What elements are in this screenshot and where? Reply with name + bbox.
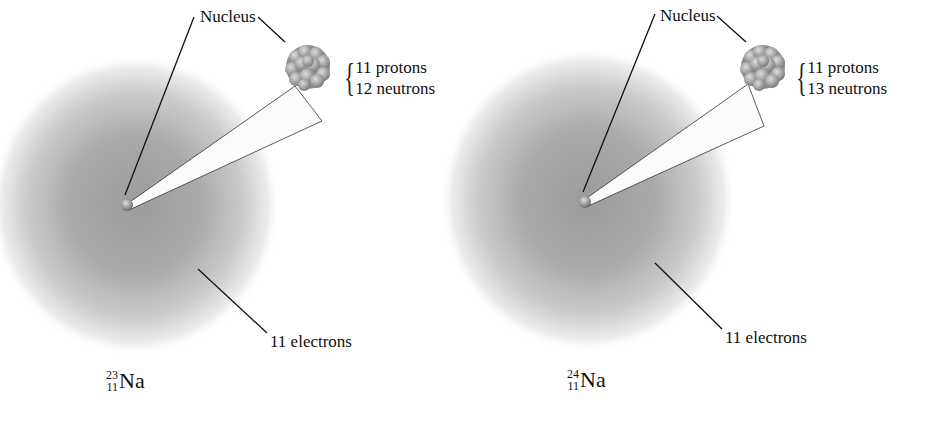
atom-na24 <box>440 14 785 352</box>
atomic-number: 11 <box>567 380 579 392</box>
nucleus-cluster <box>285 45 330 91</box>
nucleus-dot <box>579 196 591 208</box>
brace-icon: { <box>344 58 355 98</box>
isotope-symbol-na23: 23 11 Na <box>106 368 145 394</box>
nucleus-cluster <box>740 45 785 91</box>
isotope-diagram: Nucleus { 11 protons 12 neutrons 11 elec… <box>0 0 943 429</box>
element-symbol: Na <box>119 368 145 394</box>
neutrons-label: 12 neutrons <box>355 78 435 99</box>
nucleus-pointer-line <box>258 17 285 42</box>
atomic-number: 11 <box>106 381 118 393</box>
isotope-symbol-na24: 24 11 Na <box>567 367 606 393</box>
nucleus-label: Nucleus <box>200 8 256 25</box>
protons-label: 11 protons <box>807 57 887 78</box>
nucleus-pointer-line <box>717 16 746 42</box>
nucleus-label: Nucleus <box>660 7 716 24</box>
electrons-label: 11 electrons <box>725 329 807 346</box>
protons-label: 11 protons <box>355 57 435 78</box>
brace-icon: { <box>796 58 807 98</box>
neutrons-label: 13 neutrons <box>807 78 887 99</box>
atom-na23 <box>0 17 330 355</box>
element-symbol: Na <box>580 367 606 393</box>
nucleon-count: { 11 protons 13 neutrons <box>792 57 887 99</box>
nucleus-dot <box>121 199 133 211</box>
electrons-label: 11 electrons <box>270 333 352 350</box>
nucleon-count: { 11 protons 12 neutrons <box>340 57 435 99</box>
